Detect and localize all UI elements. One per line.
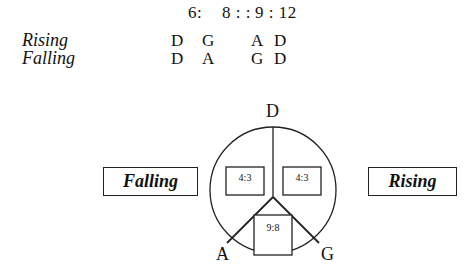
- sector-label-upper-left: 4:3: [230, 172, 260, 183]
- falling-box-label: Falling: [123, 171, 178, 192]
- rising-box: Rising: [368, 167, 457, 196]
- sector-label-upper-right: 4:3: [287, 172, 317, 183]
- circle-diagram: [0, 0, 472, 264]
- rising-box-label: Rising: [388, 171, 436, 192]
- vertex-label-left: A: [216, 244, 229, 264]
- sector-box-bottom: [254, 215, 292, 255]
- vertex-label-right: G: [321, 244, 334, 264]
- vertex-label-top: D: [266, 101, 279, 122]
- sector-label-bottom: 9:8: [258, 222, 288, 233]
- falling-box: Falling: [103, 167, 198, 196]
